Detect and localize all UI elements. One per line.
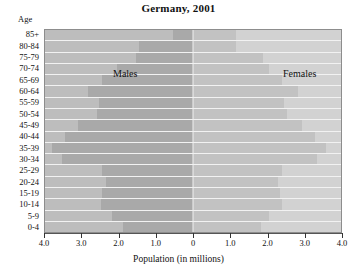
age-axis-caption: Age <box>18 14 32 24</box>
bar-male <box>62 154 193 164</box>
bar-female <box>193 154 317 164</box>
age-tick-label: 75-79 <box>0 52 41 63</box>
bar-male <box>136 53 193 63</box>
bar-female <box>193 30 236 40</box>
bar-female <box>193 120 302 130</box>
bar-male <box>112 211 193 221</box>
series-label-females: Females <box>283 68 316 79</box>
bar-male <box>102 165 193 175</box>
bar-male <box>97 109 193 119</box>
bar-male <box>173 30 193 40</box>
age-tick-label: 60-64 <box>0 86 41 97</box>
series-label-males: Males <box>113 68 137 79</box>
bar-male <box>52 143 193 153</box>
age-tick-label: 15-19 <box>0 188 41 199</box>
age-tick-label: 70-74 <box>0 63 41 74</box>
age-tick-label: 80-84 <box>0 40 41 51</box>
x-axis-title: Population (in millions) <box>0 254 357 264</box>
bar-female <box>193 199 282 209</box>
bar-male <box>78 120 193 130</box>
bar-male <box>123 222 193 232</box>
x-tick-label: 1.0 <box>150 238 161 248</box>
bar-female <box>193 98 284 108</box>
age-tick-label: 5-9 <box>0 210 41 221</box>
bar-female <box>193 177 278 187</box>
x-tick-label: 3.0 <box>299 238 310 248</box>
plot-area: Males Females <box>44 29 342 233</box>
bar-female <box>193 41 236 51</box>
x-tick-label: 2.0 <box>113 238 124 248</box>
bar-male <box>101 199 194 209</box>
age-tick-label: 35-39 <box>0 142 41 153</box>
bar-female <box>193 109 287 119</box>
bar-male <box>65 132 193 142</box>
bar-female <box>193 75 282 85</box>
bar-female <box>193 188 280 198</box>
age-tick-label: 40-44 <box>0 131 41 142</box>
x-tick-label: 4.0 <box>337 238 348 248</box>
age-tick-label: 30-34 <box>0 154 41 165</box>
age-tick-label: 10-14 <box>0 199 41 210</box>
age-tick-label: 0-4 <box>0 222 41 233</box>
x-tick-label: 0 <box>191 238 195 248</box>
x-tick-label: 3.0 <box>76 238 87 248</box>
bar-female <box>193 143 326 153</box>
bar-female <box>193 64 269 74</box>
age-tick-label: 25-29 <box>0 165 41 176</box>
age-tick-label: 50-54 <box>0 108 41 119</box>
bar-female <box>193 132 315 142</box>
age-tick-label: 85+ <box>0 29 41 40</box>
bar-female <box>193 86 298 96</box>
bar-female <box>193 53 263 63</box>
x-tick-label: 1.0 <box>225 238 236 248</box>
bar-male <box>106 177 193 187</box>
age-tick-labels: 85+80-8475-7970-7465-6960-6455-5950-5445… <box>0 29 41 233</box>
x-tick-label: 4.0 <box>39 238 50 248</box>
bar-female <box>193 222 261 232</box>
age-tick-label: 65-69 <box>0 74 41 85</box>
bar-female <box>193 165 282 175</box>
chart-title: Germany, 2001 <box>0 2 357 14</box>
population-pyramid-chart: Germany, 2001 Age 85+80-8475-7970-7465-6… <box>0 0 357 275</box>
x-tick-label: 2.0 <box>262 238 273 248</box>
bar-male <box>139 41 193 51</box>
age-tick-label: 55-59 <box>0 97 41 108</box>
bar-male <box>102 188 193 198</box>
bar-male <box>88 86 193 96</box>
age-tick-label: 20-24 <box>0 176 41 187</box>
bar-female <box>193 211 269 221</box>
bar-male <box>99 98 193 108</box>
zero-axis-line <box>193 30 194 232</box>
age-tick-label: 45-49 <box>0 120 41 131</box>
